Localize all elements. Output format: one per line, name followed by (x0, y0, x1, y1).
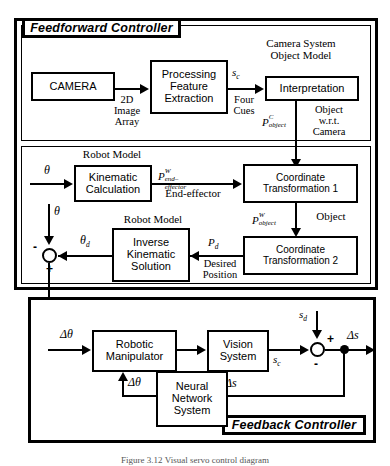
arrowhead-sd-into-sum (312, 330, 322, 339)
label-end-effector: End-effector (155, 188, 231, 200)
arrowhead-processing-to-interpretation (255, 84, 264, 94)
block-coordinate-transformation-1[interactable]: Coordinate Transformation 1 (243, 164, 358, 203)
label-object: Object (307, 211, 355, 223)
label-theta-input: θ (44, 163, 50, 178)
label-delta-s-output: Δs (347, 328, 359, 343)
sign-minus-delta-s: - (314, 357, 318, 371)
wire-node-down (343, 349, 345, 397)
sign-plus-delta-s: + (327, 332, 334, 346)
wire-neural-to-up (122, 395, 158, 397)
arrowhead-camera-to-processing (140, 84, 149, 94)
figure-canvas: Feedforward Controller Camera System Obj… (0, 0, 390, 466)
robot-model-title-2: Robot Model (110, 214, 196, 226)
label-theta-d: θd (80, 233, 90, 249)
camera-system-object-model-title: Camera System Object Model (246, 38, 356, 61)
block-vision-system[interactable]: Vision System (207, 330, 269, 372)
label-sc-feedback: sc (273, 353, 281, 368)
arrowhead-sum-to-manipulator (82, 345, 91, 355)
arrowhead-inverse-to-sum (58, 251, 67, 261)
sign-minus-theta: - (33, 240, 37, 254)
label-four-cues: Four Cues (225, 94, 263, 116)
arrowhead-theta-feedback (44, 236, 54, 245)
label-desired-position: Desired Position (196, 258, 244, 280)
label-theta-feedback: θ (54, 204, 60, 219)
figure-caption: Figure 3.12 Visual servo control diagram (0, 455, 390, 465)
block-neural-network-system[interactable]: Neural Network System (156, 371, 228, 427)
wire-theta-to-kinematic (30, 183, 68, 185)
arrowhead-theta-to-kinematic (64, 179, 73, 189)
block-coordinate-transformation-2[interactable]: Coordinate Transformation 2 (243, 236, 358, 275)
label-p-object-world: PWobject (252, 210, 259, 228)
arrowhead-vision-to-sum (300, 345, 309, 355)
block-inverse-kinematic-solution[interactable]: Inverse Kinematic Solution (112, 228, 190, 282)
block-robotic-manipulator[interactable]: Robotic Manipulator (92, 330, 177, 372)
label-object-wrt-camera: Object w.r.t. Camera (300, 104, 358, 137)
wire-theta-feedback-down (48, 204, 50, 240)
block-processing-feature-extraction[interactable]: Processing Feature Extraction (150, 60, 228, 114)
section-tag-feedback: Feedback Controller (222, 415, 366, 435)
label-delta-theta-neural: Δθ (128, 375, 141, 390)
arrowhead-manipulator-to-vision (197, 345, 206, 355)
arrowhead-neural-to-manipulator (118, 372, 128, 381)
robot-model-title-1: Robot Model (72, 149, 152, 161)
label-p-object-camera: PCobject (262, 112, 269, 130)
label-sc-top: sc (232, 66, 240, 81)
block-interpretation[interactable]: Interpretation (265, 76, 359, 101)
arrowhead-kinematic-to-coord1 (233, 179, 242, 189)
label-p-d: Pd (208, 236, 218, 251)
wire-sum-to-manipulator (48, 349, 86, 351)
label-sd: sd (299, 308, 307, 323)
block-kinematic-calculation[interactable]: Kinematic Calculation (74, 165, 152, 202)
wire-interpretation-to-coord1 (295, 101, 297, 163)
summing-junction-theta (42, 248, 57, 263)
label-delta-theta-in: Δθ (60, 327, 73, 342)
label-image-array: 2D Image Array (98, 94, 156, 127)
arrowhead-delta-s-output (366, 345, 375, 355)
section-tag-feedforward: Feedforward Controller (22, 18, 181, 38)
label-p-end-effector: PWend–effector (158, 166, 165, 184)
summing-junction-delta-s (310, 342, 325, 357)
